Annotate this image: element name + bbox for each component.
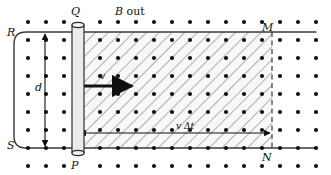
field-dot [170,110,174,114]
field-dot [314,92,318,96]
field-dot [170,20,174,24]
field-dot [26,128,30,132]
field-dot [224,164,228,168]
field-dot [278,38,282,42]
field-dot [62,74,66,78]
field-dot [206,38,210,42]
field-dot [296,56,300,60]
field-dot [26,20,30,24]
field-dot [188,110,192,114]
field-dot [278,20,282,24]
field-dot [134,92,138,96]
field-dot [116,92,120,96]
field-dot [224,110,228,114]
field-dot [206,56,210,60]
field-dot [188,74,192,78]
field-dot [296,164,300,168]
field-dot [224,56,228,60]
field-dot [170,164,174,168]
field-dot [314,128,318,132]
field-dot [26,92,30,96]
field-dot [152,164,156,168]
field-dot [116,74,120,78]
field-dot [62,92,66,96]
field-dot [206,146,210,150]
field-dot [26,74,30,78]
label-b-symbol: B [115,5,123,18]
field-dot [206,20,210,24]
field-dot [152,92,156,96]
field-dot [314,146,318,150]
field-dot [44,146,48,150]
field-dot [260,92,264,96]
field-dot [62,128,66,132]
field-dot [224,38,228,42]
field-dot [170,56,174,60]
field-dot [134,128,138,132]
label-velocity-v: v [100,72,105,81]
field-dot [296,110,300,114]
field-dot [314,164,318,168]
field-dot [170,38,174,42]
field-dot [242,56,246,60]
field-dot [62,38,66,42]
field-dot [296,128,300,132]
field-dot [62,164,66,168]
diagram-canvas [0,0,331,175]
field-dot [170,74,174,78]
field-dot [206,128,210,132]
field-dot [260,146,264,150]
field-dot [296,146,300,150]
field-dot [98,110,102,114]
field-dot [314,20,318,24]
label-b-field-out: B out [115,6,145,17]
field-dot [98,146,102,150]
field-dot [278,164,282,168]
field-dot [296,20,300,24]
field-dot [116,128,120,132]
field-dot [206,74,210,78]
field-dot [62,56,66,60]
field-dot [206,110,210,114]
field-dot [152,146,156,150]
field-dot [98,164,102,168]
label-separation-d: d [35,82,42,93]
field-dot [260,128,264,132]
field-dot [188,38,192,42]
field-dot [152,74,156,78]
field-dot [224,20,228,24]
field-dot [170,146,174,150]
field-dot [260,164,264,168]
field-dot [134,20,138,24]
field-dot [116,146,120,150]
field-dot [98,128,102,132]
field-dot [170,92,174,96]
rod-bottom-cap [72,150,84,155]
field-dot [26,164,30,168]
field-dot [26,56,30,60]
field-dot [188,146,192,150]
field-dot [44,20,48,24]
field-dot [134,38,138,42]
field-dot [224,74,228,78]
field-dot [242,74,246,78]
field-dot [26,110,30,114]
label-point-r: R [7,27,15,38]
field-dot [260,74,264,78]
field-dot [170,128,174,132]
label-point-n: N [262,152,272,163]
field-dot [242,164,246,168]
field-dot [152,38,156,42]
label-out-word: out [123,5,145,18]
field-dot [26,38,30,42]
field-dot [314,74,318,78]
field-dot [242,20,246,24]
field-dot [260,56,264,60]
field-dot [296,74,300,78]
field-dot [152,110,156,114]
field-dot [188,20,192,24]
field-dot [152,56,156,60]
field-dot [116,20,120,24]
field-dot [260,38,264,42]
field-dot [296,38,300,42]
